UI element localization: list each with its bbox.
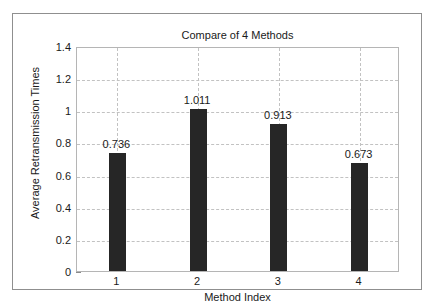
x-tick-label: 3 xyxy=(275,275,281,287)
bar xyxy=(109,153,126,271)
bar-value-label: 0.736 xyxy=(103,138,131,150)
x-tick-label: 4 xyxy=(356,275,362,287)
x-tick-label: 2 xyxy=(194,275,200,287)
gridline-horizontal xyxy=(77,112,398,113)
y-tick-label: 1.2 xyxy=(56,73,71,85)
y-tick-label: 0.2 xyxy=(56,234,71,246)
y-tick-label: 0.6 xyxy=(56,170,71,182)
x-axis-tick-labels: 1234 xyxy=(76,275,399,291)
y-tick-label: 1.4 xyxy=(56,41,71,53)
bar-value-label: 1.011 xyxy=(184,94,211,106)
bar-value-label: 0.913 xyxy=(264,109,292,121)
gridline-horizontal xyxy=(77,80,398,81)
bar-value-label: 0.673 xyxy=(345,148,373,160)
y-tick-label: 1 xyxy=(65,105,71,117)
y-tick-label: 0 xyxy=(65,266,71,278)
bar xyxy=(270,124,287,271)
y-tick-label: 0.4 xyxy=(56,202,71,214)
x-tick-label: 1 xyxy=(113,275,119,287)
y-tick-label: 0.8 xyxy=(56,137,71,149)
bar xyxy=(351,163,368,271)
x-axis-label: Method Index xyxy=(76,291,399,303)
chart-title: Compare of 4 Methods xyxy=(76,29,399,41)
bar xyxy=(190,109,207,271)
y-tick-mark xyxy=(76,272,81,273)
figure-canvas: Compare of 4 Methods Average Retransmiss… xyxy=(0,0,435,303)
y-axis-tick-labels: 00.20.40.60.811.21.4 xyxy=(35,47,71,272)
figure-frame: Compare of 4 Methods Average Retransmiss… xyxy=(12,13,422,290)
